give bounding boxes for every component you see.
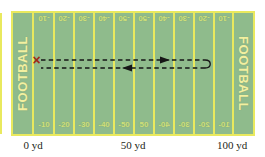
axis-tick-label-0: 0 yd	[23, 139, 42, 151]
yard-line	[73, 13, 75, 134]
yard-number-top: -40	[158, 14, 170, 23]
yard-number-bottom: -30	[78, 120, 90, 129]
yard-number-bottom: -50	[118, 120, 130, 129]
endzone-label-left: FOOTBALL	[11, 11, 34, 136]
yard-number-bottom: 40-	[158, 120, 170, 129]
yard-number-bottom: 20-	[198, 120, 210, 129]
yard-number-top: -30	[178, 14, 190, 23]
position-marker-x: ×	[30, 53, 43, 68]
yard-number-bottom: 30-	[178, 120, 190, 129]
endzone-label-right-text: FOOTBALL	[236, 36, 251, 111]
yard-number-top: -50	[138, 14, 150, 23]
yard-number-bottom: -20	[58, 120, 70, 129]
yard-line	[0, 13, 2, 134]
yard-line	[193, 13, 195, 134]
yard-number-bottom: -40	[98, 120, 110, 129]
yard-number-top: -20	[58, 14, 70, 23]
endzone-label-left-text: FOOTBALL	[15, 36, 30, 111]
football-field-figure: -10 -20 -30 -40 -50 -50 -40 -30 -20 -10 …	[0, 0, 265, 157]
yard-number-bottom: 50	[140, 120, 149, 129]
yard-number-top: -30	[78, 14, 90, 23]
axis-tick-label-50: 50 yd	[121, 139, 146, 151]
endzone-label-right: FOOTBALL	[232, 11, 255, 136]
yard-number-top: -10	[38, 14, 50, 23]
yard-number-top: -10	[218, 14, 230, 23]
yard-line	[53, 13, 55, 134]
axis-tick-label-100: 100 yd	[217, 139, 247, 151]
yard-number-top: -20	[198, 14, 210, 23]
yard-line	[153, 13, 155, 134]
yard-number-bottom: -10	[38, 120, 50, 129]
yard-number-bottom: 10-	[218, 120, 230, 129]
yard-line	[173, 13, 175, 134]
yard-number-top: -50	[118, 14, 130, 23]
yard-line	[133, 13, 135, 134]
yard-line	[93, 13, 95, 134]
yard-line	[213, 13, 215, 134]
yard-line	[113, 13, 115, 134]
yard-number-top: -40	[98, 14, 110, 23]
